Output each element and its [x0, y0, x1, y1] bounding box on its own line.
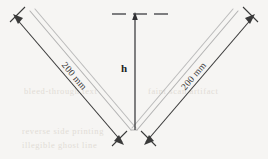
left-dimension-group: 200 mm [10, 7, 127, 146]
height-arrowhead-up [132, 12, 138, 20]
rod-right-arm-outer-edge [137, 11, 238, 130]
left-dimension-arrowhead-start [13, 14, 23, 24]
diagram-svg: h 200 mm [0, 0, 268, 159]
right-dimension-arrowhead-end [144, 135, 154, 145]
figure-canvas: bleed-through text faint scan artifact r… [0, 0, 268, 159]
right-dimension-group: 200 mm [141, 7, 258, 146]
v-rod-shape [30, 9, 238, 130]
height-dimension: h [121, 12, 138, 130]
left-dimension-arrowhead-end [114, 135, 124, 145]
height-label: h [121, 62, 127, 74]
right-dimension-line [146, 17, 253, 142]
right-dimension-arrowhead-start [245, 14, 255, 24]
left-dimension-line [15, 17, 122, 142]
rod-right-arm-inner-edge [132, 9, 233, 128]
rod-left-arm-outer-edge [30, 11, 131, 130]
